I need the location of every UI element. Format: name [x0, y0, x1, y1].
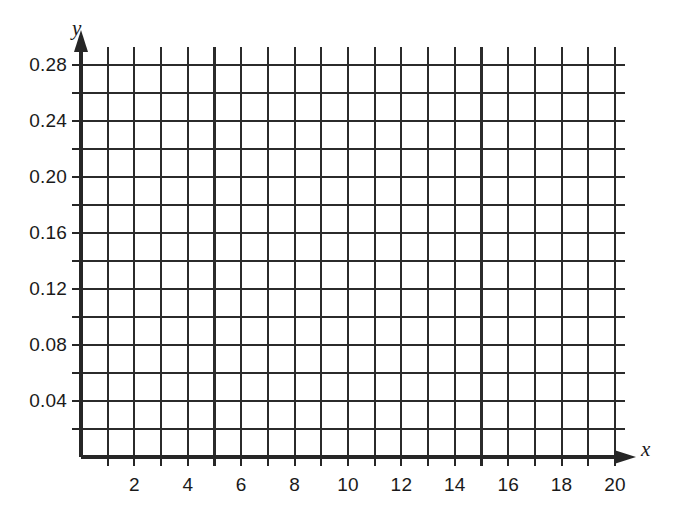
y-axis-tick-label: 0.12 [0, 278, 67, 300]
coordinate-grid-chart: 0.280.240.200.160.120.080.04 24681012141… [0, 0, 673, 511]
y-axis-tick-label: 0.04 [0, 390, 67, 412]
x-axis-tick-label: 20 [604, 474, 626, 496]
y-axis-tick-label: 0.16 [0, 222, 67, 244]
x-axis-tick-label: 18 [551, 474, 573, 496]
x-axis-tick-label: 4 [182, 474, 193, 496]
y-axis-tick-label: 0.28 [0, 54, 67, 76]
x-axis-tick-label: 6 [236, 474, 247, 496]
x-axis-tick-label: 2 [129, 474, 140, 496]
axis-lines [74, 30, 636, 464]
chart-canvas [0, 0, 673, 511]
y-axis-tick-label: 0.20 [0, 166, 67, 188]
x-axis-tick-label: 10 [337, 474, 359, 496]
x-axis-arrowhead [614, 450, 636, 464]
x-axis-tick-label: 12 [391, 474, 413, 496]
y-axis-tick-label: 0.24 [0, 110, 67, 132]
x-axis-tick-label: 8 [289, 474, 300, 496]
x-axis-tick-label: 14 [444, 474, 466, 496]
x-axis-tick-label: 16 [497, 474, 519, 496]
axis-ticks [72, 65, 615, 466]
x-axis-label: x [641, 437, 650, 462]
y-axis-label: y [72, 16, 81, 41]
grid-lines [81, 47, 625, 457]
y-axis-tick-label: 0.08 [0, 334, 67, 356]
